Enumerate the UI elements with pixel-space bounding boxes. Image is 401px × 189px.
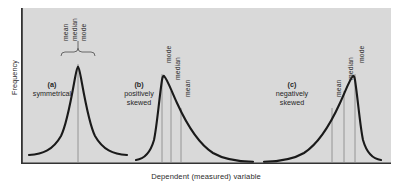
stat-label-a-mean: mean: [62, 24, 69, 41]
panel-caption-c-line1: negatively: [276, 89, 308, 98]
stat-label-a-median: median: [71, 18, 78, 41]
panel-caption-a-line1: symmetrical: [33, 89, 71, 98]
panel-caption-b-line2: skewed: [127, 98, 151, 107]
stat-label-b-median: median: [174, 57, 181, 80]
panel-tag-b: (b): [134, 80, 143, 89]
x-axis-label: Dependent (measured) variable: [21, 172, 391, 181]
stat-label-a-mode: mode: [80, 24, 87, 41]
panel-caption-c-line2: skewed: [280, 98, 304, 107]
panel-caption-c: (c) negatively skewed: [255, 80, 329, 108]
stat-label-c-median: median: [347, 57, 354, 80]
skewness-figure: Frequency mean medi: [0, 0, 401, 189]
stat-label-c-mode: mode: [358, 46, 365, 63]
stat-label-b-mode: mode: [165, 46, 172, 63]
panel-tag-a: (a): [48, 80, 57, 89]
stat-label-c-mean: mean: [335, 80, 342, 97]
panel-caption-a: (a) symmetrical: [16, 80, 88, 98]
panel-caption-b-line1: positively: [124, 89, 154, 98]
panel-caption-b: (b) positively skewed: [104, 80, 174, 108]
y-axis-label: Frequency: [10, 38, 19, 118]
panel-tag-c: (c): [288, 80, 297, 89]
stat-label-b-mean: mean: [184, 80, 191, 97]
